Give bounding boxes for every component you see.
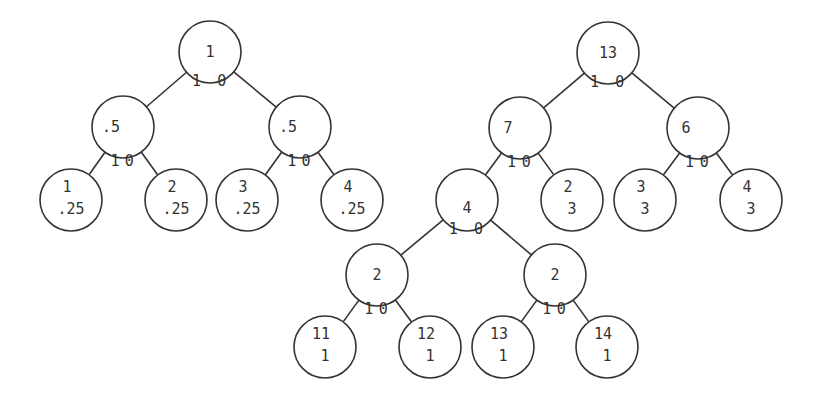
edge-label: 1 — [507, 153, 516, 171]
tree-edge — [265, 152, 282, 175]
tree-edge — [485, 153, 501, 175]
node-value: 3 — [238, 178, 247, 196]
edge-label: 0 — [125, 152, 134, 170]
edge-label: 0 — [379, 300, 388, 318]
tree-edge — [544, 73, 585, 108]
node-weight: 1 — [320, 347, 329, 365]
tree-node: 1.25 — [40, 169, 102, 231]
node-value: 13 — [490, 325, 508, 343]
node-value: .5 — [102, 118, 120, 136]
tree-edge — [538, 153, 554, 175]
edge-label: 0 — [217, 72, 226, 90]
node-value: 3 — [636, 178, 645, 196]
tree-node: 4.25 — [321, 169, 383, 231]
tree-node: 111 — [294, 316, 356, 378]
nodes-layer: 1.5.51.252.253.254.251376423334322111121… — [40, 21, 782, 378]
node-weight: .25 — [57, 200, 84, 218]
edge-label: 0 — [557, 300, 566, 318]
tree-edge — [395, 300, 411, 322]
tree-edge — [141, 152, 158, 175]
tree-node: 141 — [576, 316, 638, 378]
tree-edge — [401, 220, 443, 255]
tree-node: 3.25 — [216, 169, 278, 231]
tree-node: 6 — [667, 97, 729, 159]
node-weight: 1 — [602, 347, 611, 365]
tree-edge — [343, 300, 359, 322]
tree-node: .5 — [269, 96, 331, 158]
node-value: 2 — [167, 178, 176, 196]
node-weight: 3 — [746, 200, 755, 218]
edge-label: 1 — [542, 300, 551, 318]
node-value: 1 — [205, 43, 214, 61]
node-value: 4 — [742, 178, 751, 196]
tree-node: 2 — [524, 244, 586, 306]
tree-edge — [491, 220, 532, 255]
node-weight: .25 — [162, 200, 189, 218]
tree-node: .5 — [92, 96, 154, 158]
node-circle — [489, 97, 551, 159]
edge-label: 1 — [364, 300, 373, 318]
node-weight: 1 — [498, 347, 507, 365]
tree-node: 4 — [436, 169, 498, 231]
node-value: 6 — [681, 119, 690, 137]
tree-edge — [89, 152, 105, 175]
node-value: 2 — [550, 266, 559, 284]
node-weight: .25 — [233, 200, 260, 218]
tree-node: 2.25 — [145, 169, 207, 231]
edge-label: 1 — [685, 153, 694, 171]
node-weight: 3 — [567, 200, 576, 218]
edge-label: 0 — [522, 153, 531, 171]
tree-node: 7 — [489, 97, 551, 159]
tree-node: 1 — [179, 21, 241, 83]
tree-edge — [146, 72, 186, 107]
node-circle — [667, 97, 729, 159]
tree-edge — [632, 73, 674, 108]
node-value: 7 — [503, 119, 512, 137]
edge-label: 1 — [192, 72, 201, 90]
tree-edge — [318, 152, 334, 175]
edge-label: 1 — [449, 220, 458, 238]
tree-edge — [573, 300, 589, 322]
node-value: 4 — [462, 199, 471, 217]
node-value: 2 — [563, 178, 572, 196]
tree-node: 121 — [399, 316, 461, 378]
tree-node: 23 — [541, 169, 603, 231]
edge-label: 0 — [615, 73, 624, 91]
diagram-svg: 1.5.51.252.253.254.251376423334322111121… — [0, 0, 823, 397]
edge-label: 0 — [700, 153, 709, 171]
node-weight: 1 — [425, 347, 434, 365]
edge-label: 0 — [474, 220, 483, 238]
node-value: 13 — [599, 44, 617, 62]
node-value: 14 — [594, 325, 612, 343]
node-weight: .25 — [338, 200, 365, 218]
edge-label: 1 — [590, 73, 599, 91]
node-weight: 3 — [640, 200, 649, 218]
huffman-tree-diagram: 1.5.51.252.253.254.251376423334322111121… — [0, 0, 823, 397]
tree-node: 33 — [614, 169, 676, 231]
edge-label: 1 — [110, 152, 119, 170]
tree-edge — [716, 153, 732, 175]
edge-label: 1 — [287, 152, 296, 170]
node-value: 2 — [372, 266, 381, 284]
tree-edge — [521, 300, 537, 322]
tree-node: 2 — [346, 244, 408, 306]
tree-edge — [234, 72, 276, 107]
tree-edge — [663, 153, 679, 175]
tree-node: 13 — [577, 22, 639, 84]
tree-node: 43 — [720, 169, 782, 231]
node-value: 1 — [62, 178, 71, 196]
node-value: .5 — [279, 118, 297, 136]
node-value: 12 — [417, 325, 435, 343]
node-value: 4 — [343, 178, 352, 196]
tree-node: 131 — [472, 316, 534, 378]
edge-label: 0 — [301, 152, 310, 170]
node-value: 11 — [312, 325, 330, 343]
